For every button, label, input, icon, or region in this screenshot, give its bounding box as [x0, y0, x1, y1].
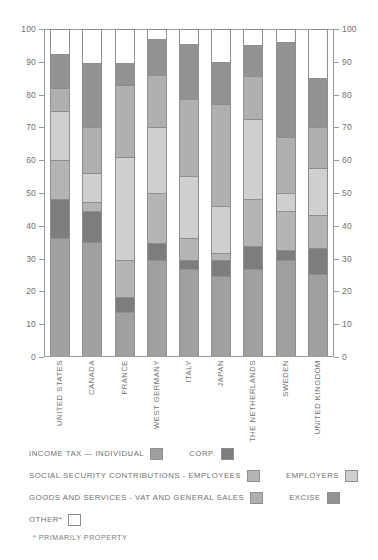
bar-segment — [116, 158, 134, 261]
bar-column — [243, 29, 263, 357]
bar-segment — [116, 313, 134, 357]
bar-segment — [51, 112, 69, 161]
y-tick-right-70 — [334, 127, 339, 128]
bar-segment — [148, 194, 166, 245]
bar-segment — [309, 249, 327, 275]
bar-segment — [83, 174, 101, 203]
x-axis-label-slot: CANADA — [82, 360, 102, 438]
bar-segment — [309, 128, 327, 169]
x-axis-label: FRANCE — [121, 360, 129, 395]
y-tick-label-left-10: 10 — [26, 320, 36, 329]
bar-column — [115, 29, 135, 357]
y-tick-label-right-90: 90 — [342, 58, 352, 67]
y-tick-label-right-50: 50 — [342, 189, 352, 198]
bar-column — [276, 29, 296, 357]
x-axis-label: SWEDEN — [282, 360, 290, 397]
legend-entry[interactable]: EXCISE — [289, 492, 340, 504]
bar-segment — [180, 177, 198, 239]
y-tick-label-left-70: 70 — [26, 123, 36, 132]
bar-stack — [179, 29, 199, 357]
x-axis-label-slot: SWEDEN — [276, 360, 296, 438]
legend-entry[interactable]: OTHER* — [29, 514, 81, 526]
bar-segment — [212, 105, 230, 206]
bar-segment — [180, 30, 198, 45]
bar-segment — [180, 239, 198, 260]
bar-stack — [50, 29, 70, 357]
bar-segment — [180, 100, 198, 177]
legend-entry[interactable]: GOODS AND SERVICES - VAT AND GENERAL SAL… — [29, 492, 263, 504]
bar-segment — [212, 261, 230, 277]
bar-segment — [51, 200, 69, 239]
legend-label: EMPLOYERS — [286, 472, 339, 480]
y-tick-label-left-60: 60 — [26, 156, 36, 165]
bar-segment — [309, 275, 327, 357]
legend-swatch-goods-services-vat — [250, 492, 263, 504]
bar-segment — [83, 212, 101, 243]
bar-segment — [244, 270, 262, 357]
bar-segment — [116, 64, 134, 85]
legend-row: SOCIAL SECURITY CONTRIBUTIONS - EMPLOYEE… — [29, 465, 359, 487]
x-axis-label: ITALY — [185, 360, 193, 383]
y-tick-right-80 — [334, 95, 339, 96]
y-tick-right-30 — [334, 259, 339, 260]
bar-stack — [308, 29, 328, 357]
y-tick-right-40 — [334, 226, 339, 227]
bar-segment — [116, 261, 134, 299]
legend-row: OTHER* — [29, 509, 359, 531]
legend-swatch-income-tax-individual — [150, 448, 163, 460]
legend-entry[interactable]: CORP. — [189, 448, 234, 460]
bar-segment — [277, 43, 295, 138]
legend-label: EXCISE — [289, 494, 321, 502]
x-axis-label: THE NETHERLANDS — [250, 360, 258, 442]
y-tick-label-right-100: 100 — [342, 25, 357, 34]
legend-entry[interactable]: EMPLOYERS — [286, 470, 358, 482]
y-tick-label-left-100: 100 — [21, 25, 36, 34]
bar-segment — [51, 161, 69, 200]
bar-segment — [212, 207, 230, 254]
bar-segment — [83, 203, 101, 211]
x-axis-label-slot: UNITED KINGDOM — [308, 360, 328, 438]
legend-swatch-income-tax-corp — [221, 448, 234, 460]
bar-segment — [277, 138, 295, 194]
x-axis-label: WEST GERMANY — [153, 360, 161, 429]
bar-segment — [244, 46, 262, 77]
legend-label: INCOME TAX — INDIVIDUAL — [29, 450, 144, 458]
y-tick-right-50 — [334, 193, 339, 194]
legend-entry[interactable]: INCOME TAX — INDIVIDUAL — [29, 448, 163, 460]
legend-entry[interactable]: SOCIAL SECURITY CONTRIBUTIONS - EMPLOYEE… — [29, 470, 260, 482]
legend-label: SOCIAL SECURITY CONTRIBUTIONS - EMPLOYEE… — [29, 472, 241, 480]
y-tick-label-left-80: 80 — [26, 91, 36, 100]
bar-segment — [309, 79, 327, 128]
y-tick-right-60 — [334, 160, 339, 161]
legend-label: OTHER* — [29, 516, 62, 524]
legend-footnote: * PRIMARILY PROPERTY — [29, 533, 359, 542]
bar-segment — [180, 45, 198, 101]
legend-swatch-goods-services-excise — [327, 492, 340, 504]
bar-segment — [180, 270, 198, 357]
bar-segment — [116, 30, 134, 64]
bar-segment — [148, 261, 166, 357]
bar-segment — [116, 86, 134, 158]
legend-swatch-social-security-employers — [345, 470, 358, 482]
bar-stack — [115, 29, 135, 357]
x-axis-label-slot: ITALY — [179, 360, 199, 438]
bar-segment — [116, 298, 134, 313]
x-axis-label-slot: FRANCE — [115, 360, 135, 438]
chart-legend: INCOME TAX — INDIVIDUALCORP.SOCIAL SECUR… — [29, 443, 359, 542]
x-axis-label: CANADA — [89, 360, 97, 395]
chart-page: 0010102020303040405050606070708080909010… — [0, 0, 378, 560]
y-tick-right-100 — [334, 29, 339, 30]
bar-segment — [180, 261, 198, 271]
bar-segment — [212, 63, 230, 106]
bar-column — [179, 29, 199, 357]
bar-column — [50, 29, 70, 357]
x-axis-label-slot: WEST GERMANY — [147, 360, 167, 438]
x-axis-label-slot: JAPAN — [211, 360, 231, 438]
y-tick-right-0 — [334, 357, 339, 358]
y-tick-label-right-20: 20 — [342, 287, 352, 296]
legend-row: INCOME TAX — INDIVIDUALCORP. — [29, 443, 359, 465]
bar-group — [44, 29, 334, 357]
bar-segment — [51, 30, 69, 55]
y-tick-label-left-0: 0 — [31, 353, 36, 362]
x-axis-label-slot: THE NETHERLANDS — [243, 360, 263, 438]
